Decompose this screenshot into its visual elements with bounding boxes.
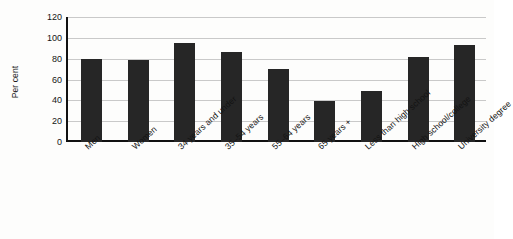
y-tick-label: 0 (22, 137, 62, 147)
y-tick-label: 120 (22, 12, 62, 22)
y-tick-label: 100 (22, 33, 62, 43)
plot-area (66, 17, 486, 142)
bar (81, 59, 102, 142)
y-tick-label: 60 (22, 75, 62, 85)
x-axis-category-labels: MenWomen34 years and under35–54 years55–… (66, 144, 494, 239)
y-tick-label: 40 (22, 95, 62, 105)
y-tick-label: 20 (22, 116, 62, 126)
y-axis-tick-labels: 020406080100120 (16, 17, 62, 142)
bars-layer (66, 17, 486, 142)
y-tick-label: 80 (22, 54, 62, 64)
bar (174, 43, 195, 142)
